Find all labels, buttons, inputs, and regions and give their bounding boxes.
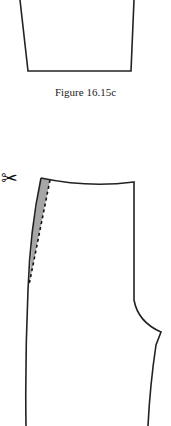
pattern-diagram [0,0,171,426]
upper-pattern-piece [20,0,134,71]
scissors-icon: ✂ [1,168,18,188]
lower-pattern-piece [41,178,161,426]
figure-caption: Figure 16.15c [0,86,171,98]
